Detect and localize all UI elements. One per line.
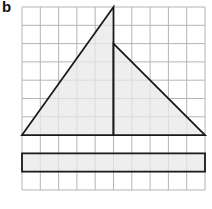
left-triangle bbox=[22, 7, 114, 135]
right-triangle bbox=[114, 44, 206, 136]
grid-diagram bbox=[0, 0, 212, 209]
rectangle bbox=[22, 153, 205, 171]
